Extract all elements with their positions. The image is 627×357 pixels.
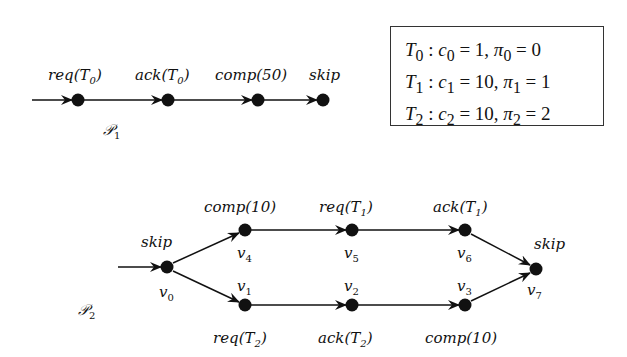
p1-label-skip: skip <box>309 66 341 84</box>
p2-node-v7 <box>530 263 543 276</box>
p2-name-v4: v4 <box>237 244 252 264</box>
p2-action-v4: comp(10) <box>204 198 276 216</box>
p2-action-v1: req(T2) <box>213 329 267 349</box>
legend-pi-value: 2 <box>541 103 551 124</box>
p2-name-v1: v1 <box>237 277 252 297</box>
process-p2: skip comp(10) req(T1) ack(T1) skip req(T… <box>78 198 566 349</box>
p2-action-v0: skip <box>141 233 173 251</box>
legend-cost-value: 1 <box>475 39 485 60</box>
legend-pi-sub: 1 <box>513 79 521 96</box>
p1-node-skip <box>317 94 330 107</box>
p2-name-v2: v2 <box>344 277 359 297</box>
process-p1: req(T0) ack(T0) comp(50) skip 𝒫1 <box>32 66 341 141</box>
task-parameters-legend: T0 : c0 = 1, π0 = 0 T1 : c1 = 10, π1 = 1… <box>390 26 604 126</box>
legend-task-sub: 1 <box>416 79 424 96</box>
legend-pi-value: 0 <box>532 39 542 60</box>
p2-node-v5 <box>346 224 359 237</box>
p2-name-v0: v0 <box>159 283 174 303</box>
legend-cost-symbol: c <box>438 39 446 60</box>
p2-name-v5: v5 <box>344 244 359 264</box>
p2-node-v6 <box>459 224 472 237</box>
legend-task: T <box>405 103 416 124</box>
p2-node-v4 <box>239 224 252 237</box>
p2-action-v6: ack(T1) <box>433 198 488 218</box>
legend-cost-symbol: c <box>438 103 446 124</box>
p2-node-v2 <box>346 299 359 312</box>
p2-edge-v0-v1 <box>173 271 239 302</box>
legend-line-t2: T2 : c2 = 10, π2 = 2 <box>405 101 603 133</box>
p1-title: 𝒫1 <box>103 121 120 141</box>
p1-label-comp-50: comp(50) <box>215 66 287 84</box>
p2-edge-v0-v4 <box>173 233 239 263</box>
p2-title: 𝒫2 <box>78 301 95 321</box>
p2-action-v2: ack(T2) <box>318 329 373 349</box>
p2-action-v7: skip <box>534 235 566 253</box>
p2-name-v6: v6 <box>457 244 472 264</box>
p1-label-ack-t0: ack(T0) <box>135 66 190 86</box>
legend-line-t0: T0 : c0 = 1, π0 = 0 <box>405 37 603 69</box>
p2-edge-v3-v7 <box>471 273 530 301</box>
legend-pi-sub: 0 <box>503 47 511 64</box>
legend-line-t1: T1 : c1 = 10, π1 = 1 <box>405 69 603 101</box>
p2-node-v0 <box>161 261 174 274</box>
legend-task: T <box>405 71 416 92</box>
legend-cost-value: 10 <box>475 103 494 124</box>
p2-name-v7: v7 <box>527 281 542 301</box>
p2-action-v3: comp(10) <box>425 329 497 347</box>
legend-pi-symbol: π <box>494 39 504 60</box>
legend-pi-symbol: π <box>503 71 513 92</box>
legend-pi-sub: 2 <box>513 110 521 127</box>
legend-cost-value: 10 <box>475 71 494 92</box>
legend-pi-value: 1 <box>541 71 551 92</box>
legend-cost-sub: 0 <box>447 47 455 64</box>
p1-node-ack-t0 <box>162 94 175 107</box>
legend-task-sub: 0 <box>416 47 424 64</box>
p1-node-req-t0 <box>72 94 85 107</box>
p2-edge-v6-v7 <box>471 234 530 265</box>
p2-node-v1 <box>239 299 252 312</box>
legend-pi-symbol: π <box>503 103 513 124</box>
legend-task-sub: 2 <box>416 110 424 127</box>
p1-label-req-t0: req(T0) <box>48 66 102 86</box>
legend-cost-sub: 2 <box>447 110 455 127</box>
p2-name-v3: v3 <box>457 277 472 297</box>
legend-cost-sub: 1 <box>447 79 455 96</box>
legend-cost-symbol: c <box>438 71 446 92</box>
p2-action-v5: req(T1) <box>319 198 373 218</box>
legend-task: T <box>405 39 416 60</box>
p1-node-comp-50 <box>252 94 265 107</box>
p2-node-v3 <box>459 299 472 312</box>
